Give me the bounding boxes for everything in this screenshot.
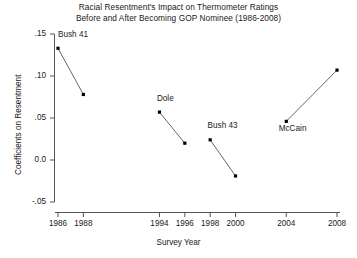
- y-axis-title: Coefficients on Resentment: [14, 75, 23, 175]
- series-line: [58, 48, 83, 94]
- series-annotation-label: Bush 43: [208, 121, 238, 130]
- x-tick-label: 2000: [219, 219, 253, 228]
- chart-container: Racial Resentment's Impact on Thermomete…: [0, 0, 357, 258]
- data-point-marker: [234, 174, 237, 177]
- series-line: [159, 112, 184, 143]
- x-tick-label: 1988: [66, 219, 100, 228]
- series-annotation-label: Bush 41: [58, 30, 88, 39]
- y-tick-marks: [50, 34, 55, 202]
- y-tick-label: -.05: [16, 197, 46, 206]
- x-axis-title: Survey Year: [0, 238, 357, 247]
- series-lines: [58, 48, 337, 176]
- data-point-marker: [285, 120, 288, 123]
- series-annotation-label: Dole: [157, 94, 174, 103]
- x-tick-label: 2004: [269, 219, 303, 228]
- data-point-marker: [209, 138, 212, 141]
- data-point-marker: [158, 111, 161, 114]
- data-point-marker: [183, 142, 186, 145]
- series-line: [210, 140, 235, 176]
- y-tick-label: .15: [16, 29, 46, 38]
- x-tick-label: 2008: [320, 219, 354, 228]
- data-point-marker: [335, 69, 338, 72]
- data-point-marker: [82, 93, 85, 96]
- data-point-marker: [56, 47, 59, 50]
- series-markers: [56, 47, 338, 178]
- series-annotation-label: McCain: [279, 124, 307, 133]
- series-line: [286, 70, 337, 121]
- x-tick-marks: [58, 213, 337, 218]
